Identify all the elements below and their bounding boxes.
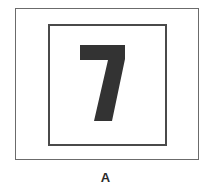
figure-caption: A xyxy=(0,171,211,185)
inner-frame xyxy=(48,24,167,146)
